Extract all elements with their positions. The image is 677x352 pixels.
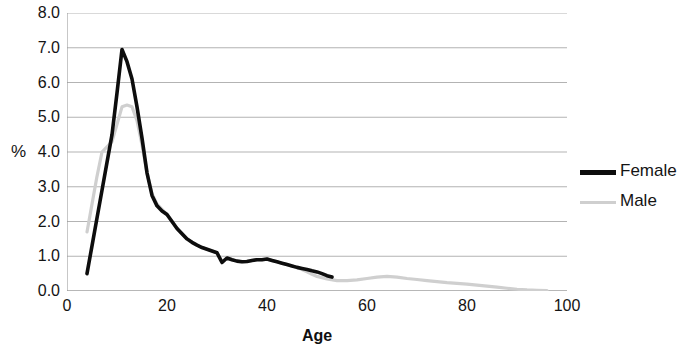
legend-swatch-icon <box>580 170 616 175</box>
series-line-male <box>87 105 547 291</box>
y-tick-label: 4.0 <box>14 144 60 160</box>
y-tick-label: 1.0 <box>14 248 60 264</box>
x-tick-label: 0 <box>37 297 97 315</box>
chart-legend: FemaleMale <box>580 158 670 218</box>
chart-canvas <box>67 13 567 291</box>
x-tick-label: 40 <box>237 297 297 315</box>
series-line-female <box>87 49 332 277</box>
x-tick-label: 60 <box>337 297 397 315</box>
x-axis-label: Age <box>67 327 567 345</box>
legend-item-male: Male <box>580 188 670 218</box>
x-tick-label: 80 <box>437 297 497 315</box>
legend-swatch-icon <box>580 201 616 204</box>
legend-item-female: Female <box>580 158 670 188</box>
y-tick-label: 3.0 <box>14 179 60 195</box>
x-tick-label: 100 <box>537 297 597 315</box>
legend-label: Male <box>620 190 657 212</box>
y-tick-label: 8.0 <box>14 5 60 21</box>
x-tick-label: 20 <box>137 297 197 315</box>
legend-label: Female <box>620 160 677 182</box>
plot-area <box>67 13 567 291</box>
y-tick-label: 2.0 <box>14 214 60 230</box>
data-series-layer <box>87 49 547 290</box>
y-tick-label: 5.0 <box>14 109 60 125</box>
y-tick-label: 6.0 <box>14 75 60 91</box>
y-tick-label: 7.0 <box>14 40 60 56</box>
